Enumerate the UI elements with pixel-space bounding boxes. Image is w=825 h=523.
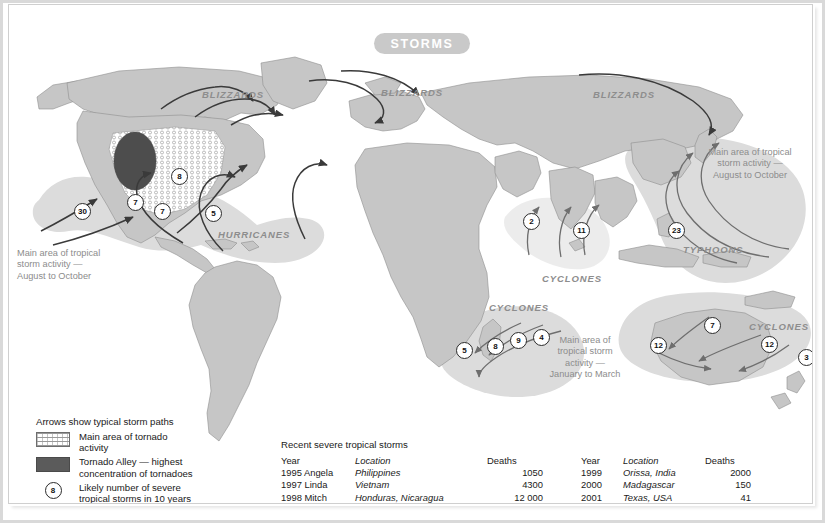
legend-item-label: Main area of tornado activity: [79, 431, 168, 453]
map-legend: Arrows show typical storm paths Main are…: [36, 416, 276, 503]
col-header-deaths: Deaths: [487, 455, 543, 467]
storm-count-marker: 2: [523, 213, 540, 230]
storm-count-marker: 7: [127, 194, 144, 211]
page-title: STORMS: [374, 33, 470, 54]
legend-item-tornado-alley: Tornado Alley — highest concentration of…: [36, 456, 276, 478]
storm-count-swatch: 8: [36, 483, 70, 498]
cell-location: Orissa, India: [623, 467, 705, 479]
storm-table-right: Year Location Deaths 1999Orissa, India20…: [581, 455, 751, 503]
cell-year: 1995 Angela: [281, 467, 355, 479]
cell-deaths: 2000: [705, 467, 751, 479]
cell-year: 2001: [581, 492, 623, 503]
table-row: 1998 MitchHonduras, Nicaragua12 000: [281, 492, 543, 503]
legend-item-storm-count: 8 Likely number of severe tropical storm…: [36, 482, 276, 503]
cell-deaths: 41: [705, 492, 751, 503]
col-header-location: Location: [623, 455, 705, 467]
label-blizzards-asia: BLIZZARDS: [593, 89, 655, 100]
world-map: STORMS BLIZZARDS BLIZZARDS BLIZZARDS HUR…: [9, 5, 812, 503]
cell-location: Madagascar: [623, 479, 705, 491]
tornado-alley-swatch: [36, 457, 70, 472]
col-header-year: Year: [281, 455, 355, 467]
table-row: 2000Madagascar150: [581, 479, 751, 491]
label-blizzards-north-america: BLIZZARDS: [202, 89, 264, 100]
table-row: 1995 AngelaPhilippines1050: [281, 467, 543, 479]
cell-deaths: 1050: [487, 467, 543, 479]
col-header-deaths: Deaths: [705, 455, 751, 467]
label-blizzards-europe: BLIZZARDS: [381, 87, 443, 98]
storm-count-symbol: 8: [45, 482, 62, 499]
label-cyclones-pacific: CYCLONES: [749, 321, 809, 332]
legend-item-tornado-area: Main area of tornado activity: [36, 431, 276, 453]
legend-title: Arrows show typical storm paths: [36, 416, 276, 427]
table-row: 2001Texas, USA41: [581, 492, 751, 503]
note-pacific-storm-season: Main area of tropical storm activity — A…: [695, 147, 805, 181]
atlas-page: STORMS BLIZZARDS BLIZZARDS BLIZZARDS HUR…: [0, 0, 825, 523]
storm-count-marker: 3: [798, 349, 812, 366]
table-header-row: Year Location Deaths: [281, 455, 543, 467]
storm-count-marker: 8: [171, 168, 188, 185]
storm-count-marker: 12: [761, 336, 778, 353]
cell-deaths: 4300: [487, 479, 543, 491]
cell-location: Texas, USA: [623, 492, 705, 503]
col-header-location: Location: [355, 455, 487, 467]
storm-count-marker: 5: [456, 342, 473, 359]
table-row: 1997 LindaVietnam4300: [281, 479, 543, 491]
storm-count-marker: 4: [533, 329, 550, 346]
col-header-year: Year: [581, 455, 623, 467]
cell-deaths: 12 000: [487, 492, 543, 503]
table-header-row: Year Location Deaths: [581, 455, 751, 467]
storm-count-marker: 7: [154, 203, 171, 220]
tornado-area-swatch: [36, 432, 70, 447]
table-row: 1999Orissa, India2000: [581, 467, 751, 479]
label-typhoons: TYPHOONS: [683, 244, 744, 255]
storm-data-tables: Recent severe tropical storms Year Locat…: [281, 439, 801, 503]
table-gap: [543, 455, 581, 503]
page-title-text: STORMS: [391, 37, 454, 51]
storm-count-marker: 12: [650, 337, 667, 354]
cell-location: Honduras, Nicaragua: [355, 492, 487, 503]
label-cyclones-indian-south: CYCLONES: [489, 302, 549, 313]
storm-table-left-body: 1995 AngelaPhilippines10501997 LindaViet…: [281, 467, 543, 503]
cell-year: 1997 Linda: [281, 479, 355, 491]
legend-item-label: Tornado Alley — highest concentration of…: [79, 456, 193, 478]
tables-title: Recent severe tropical storms: [281, 439, 801, 450]
note-indian-storm-season: Main area of tropical storm activity — J…: [537, 335, 633, 381]
storm-count-marker: 30: [74, 203, 91, 220]
storm-table-right-body: 1999Orissa, India20002000Madagascar15020…: [581, 467, 751, 503]
cell-deaths: 150: [705, 479, 751, 491]
cell-location: Vietnam: [355, 479, 487, 491]
note-atlantic-storm-season: Main area of tropical storm activity — A…: [17, 248, 129, 282]
storm-count-marker: 8: [487, 338, 504, 355]
storm-table-left: Year Location Deaths 1995 AngelaPhilippi…: [281, 455, 543, 503]
storm-count-marker: 7: [704, 317, 721, 334]
storm-count-marker: 9: [510, 332, 527, 349]
storm-count-marker: 5: [205, 205, 222, 222]
storm-count-marker: 23: [668, 222, 685, 239]
cell-year: 2000: [581, 479, 623, 491]
storm-count-marker: 11: [573, 222, 590, 239]
label-cyclones-indian-north: CYCLONES: [542, 273, 602, 284]
label-hurricanes: HURRICANES: [218, 229, 290, 240]
cell-year: 1998 Mitch: [281, 492, 355, 503]
cell-location: Philippines: [355, 467, 487, 479]
cell-year: 1999: [581, 467, 623, 479]
legend-item-label: Likely number of severe tropical storms …: [79, 482, 191, 503]
